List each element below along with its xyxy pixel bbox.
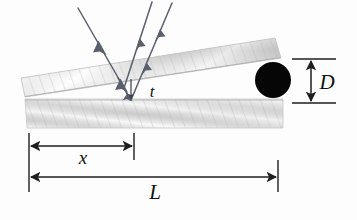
physics-diagram-figure: t D x L xyxy=(0,0,357,220)
wedge-film-diagram: t D x L xyxy=(0,0,357,220)
diameter-label: D xyxy=(318,70,334,94)
length-L-label: L xyxy=(148,180,161,204)
cylindrical-wire-spacer xyxy=(255,62,291,98)
distance-x-label: x xyxy=(78,147,88,168)
lower-glass-plate xyxy=(25,99,283,128)
